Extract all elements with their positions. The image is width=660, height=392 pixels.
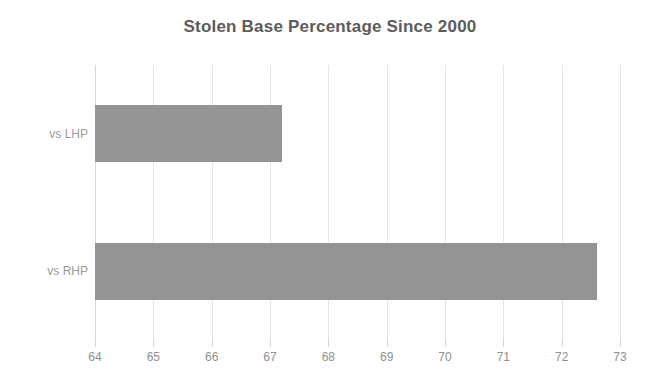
x-tick-label-67: 67 bbox=[263, 350, 276, 364]
x-tick-label-70: 70 bbox=[438, 350, 451, 364]
x-tick-label-65: 65 bbox=[147, 350, 160, 364]
bar-vs-lhp bbox=[95, 105, 282, 162]
x-tick-mark-72 bbox=[562, 340, 563, 347]
plot-area bbox=[95, 65, 620, 340]
x-tick-mark-64 bbox=[95, 340, 96, 347]
x-tick-mark-68 bbox=[328, 340, 329, 347]
x-tick-mark-71 bbox=[503, 340, 504, 347]
x-tick-label-69: 69 bbox=[380, 350, 393, 364]
x-tick-mark-70 bbox=[445, 340, 446, 347]
x-tick-label-72: 72 bbox=[555, 350, 568, 364]
x-tick-mark-66 bbox=[212, 340, 213, 347]
x-tick-mark-69 bbox=[387, 340, 388, 347]
category-axis: vs LHPvs RHP bbox=[0, 0, 95, 392]
category-label-vs-rhp: vs RHP bbox=[47, 264, 88, 278]
x-tick-label-71: 71 bbox=[497, 350, 510, 364]
chart-title: Stolen Base Percentage Since 2000 bbox=[0, 17, 660, 37]
x-tick-label-64: 64 bbox=[88, 350, 101, 364]
x-tick-mark-73 bbox=[620, 340, 621, 347]
x-tick-mark-65 bbox=[153, 340, 154, 347]
gridline-73 bbox=[620, 65, 621, 340]
bar-chart: Stolen Base Percentage Since 2000 vs LHP… bbox=[0, 0, 660, 392]
x-tick-label-68: 68 bbox=[322, 350, 335, 364]
bar-vs-rhp bbox=[95, 243, 597, 300]
category-label-vs-lhp: vs LHP bbox=[49, 127, 88, 141]
x-tick-mark-67 bbox=[270, 340, 271, 347]
x-tick-label-66: 66 bbox=[205, 350, 218, 364]
x-tick-label-73: 73 bbox=[613, 350, 626, 364]
